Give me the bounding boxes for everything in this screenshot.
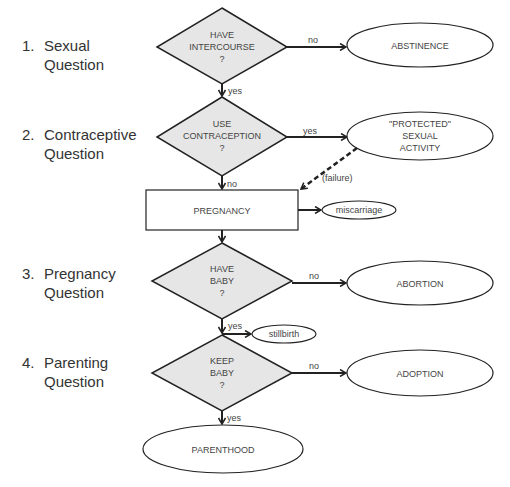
edge-label: no (309, 271, 319, 281)
outcome-abstinence: ABSTINENCE (347, 23, 493, 67)
edge-contraception-no: no (222, 176, 237, 189)
edge-intercourse-yes: yes (222, 84, 243, 96)
edge-label: yes (303, 126, 318, 136)
outcome-miscarriage: miscarriage (322, 201, 396, 219)
decision-text: KEEP (210, 356, 234, 366)
flowchart: HAVE INTERCOURSE ? no ABSTINENCE yes USE… (0, 0, 510, 487)
decision-keep-baby: KEEP BABY ? (152, 335, 292, 411)
decision-text: CONTRACEPTION (183, 131, 261, 141)
outcome-stillbirth: stillbirth (252, 325, 316, 343)
decision-text: HAVE (210, 30, 234, 40)
outcome-text: ACTIVITY (400, 143, 441, 153)
decision-text: ? (219, 288, 224, 298)
edge-label: no (309, 361, 319, 371)
edge-intercourse-no: no (287, 35, 346, 47)
edge-keep-baby-yes: yes (222, 411, 242, 424)
edge-failure: (failure) (301, 148, 357, 189)
process-text: PREGNANCY (193, 206, 250, 216)
outcome-adoption: ADOPTION (347, 350, 493, 396)
decision-have-intercourse: HAVE INTERCOURSE ? (157, 8, 287, 84)
edge-label: yes (228, 86, 243, 96)
decision-text: BABY (210, 368, 234, 378)
decision-text: ? (219, 54, 224, 64)
decision-text: ? (219, 380, 224, 390)
decision-text: BABY (210, 276, 234, 286)
decision-text: HAVE (210, 264, 234, 274)
edge-have-baby-yes: yes (222, 319, 251, 334)
edge-keep-baby-no: no (292, 361, 346, 373)
decision-text: INTERCOURSE (189, 42, 255, 52)
decision-text: ? (219, 143, 224, 153)
outcome-protected-sexual-activity: "PROTECTED" SEXUAL ACTIVITY (347, 112, 493, 160)
decision-have-baby: HAVE BABY ? (152, 243, 292, 319)
process-pregnancy: PREGNANCY (146, 190, 298, 230)
edge-label: no (308, 35, 318, 45)
outcome-text: ABSTINENCE (391, 41, 449, 51)
edge-contraception-yes: yes (287, 126, 347, 137)
outcome-text: "PROTECTED" (389, 119, 451, 129)
outcome-text: SEXUAL (402, 131, 438, 141)
outcome-text: stillbirth (269, 329, 300, 339)
outcome-parenthood: PARENTHOOD (143, 425, 303, 473)
outcome-abortion: ABORTION (347, 261, 493, 305)
edge-label: yes (228, 321, 243, 331)
edge-have-baby-no: no (292, 271, 346, 283)
edge-label: no (227, 179, 237, 189)
outcome-text: miscarriage (336, 205, 383, 215)
outcome-text: ABORTION (397, 279, 444, 289)
decision-text: USE (213, 119, 232, 129)
outcome-text: PARENTHOOD (192, 445, 255, 455)
decision-use-contraception: USE CONTRACEPTION ? (157, 97, 287, 176)
edge-label: yes (227, 413, 242, 423)
edge-label: (failure) (322, 173, 353, 183)
outcome-text: ADOPTION (396, 369, 443, 379)
